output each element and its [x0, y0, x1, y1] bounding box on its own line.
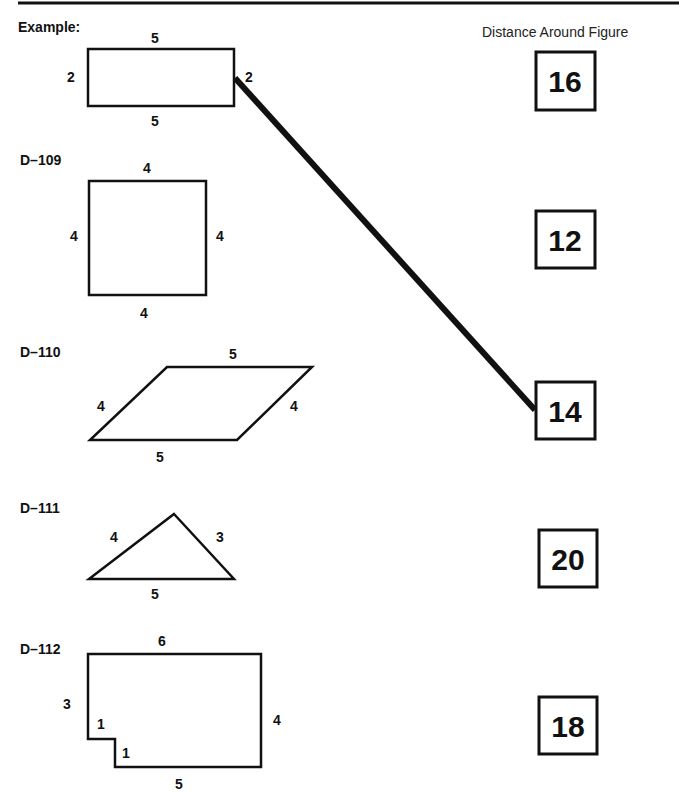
triangle-side-right: 3	[216, 529, 224, 545]
answer-value: 18	[551, 710, 584, 743]
triangle-figure	[89, 514, 234, 579]
example-side-left: 2	[67, 69, 75, 85]
example-rectangle	[88, 49, 234, 106]
answer-value: 12	[548, 224, 581, 257]
problem-id-d111: D–111	[20, 500, 60, 516]
notched-side-bottom: 5	[175, 776, 183, 792]
parallelogram-side-top: 5	[229, 346, 237, 362]
square-side-bottom: 4	[140, 305, 148, 321]
answer-box[interactable]: 18	[539, 697, 597, 754]
example-side-right: 2	[245, 69, 253, 85]
parallelogram-side-left: 4	[97, 398, 105, 414]
notched-rectangle-figure	[88, 654, 261, 767]
problem-id-d112: D–112	[20, 641, 61, 657]
notched-side-notch-side: 1	[122, 745, 130, 761]
notched-side-notch-top: 1	[97, 716, 105, 732]
problem-id-d110: D–110	[20, 344, 61, 360]
parallelogram-figure	[90, 367, 312, 440]
answer-box[interactable]: 16	[536, 52, 595, 110]
square-side-top: 4	[143, 160, 151, 176]
square-side-left: 4	[70, 228, 78, 244]
answer-value: 14	[548, 395, 582, 428]
parallelogram-side-right: 4	[290, 398, 298, 414]
notched-side-right: 4	[273, 712, 281, 728]
example-side-bottom: 5	[151, 113, 159, 129]
answer-box[interactable]: 20	[539, 530, 597, 587]
worksheet: Distance Around Figure Example: 5 2 2 5 …	[0, 0, 679, 802]
notched-side-left: 3	[63, 696, 71, 712]
example-side-top: 5	[151, 30, 159, 46]
example-label: Example:	[18, 19, 80, 35]
parallelogram-side-bottom: 5	[156, 449, 164, 465]
square-figure	[89, 181, 206, 295]
triangle-side-left: 4	[110, 529, 118, 545]
answer-box[interactable]: 14	[536, 382, 595, 439]
answer-box[interactable]: 12	[536, 211, 595, 268]
answer-value: 16	[548, 65, 581, 98]
answer-value: 20	[551, 543, 584, 576]
problem-id-d109: D–109	[20, 152, 61, 168]
column-title: Distance Around Figure	[482, 24, 629, 40]
triangle-side-bottom: 5	[151, 586, 159, 602]
match-line[interactable]	[235, 78, 535, 410]
notched-side-top: 6	[158, 633, 166, 649]
square-side-right: 4	[216, 228, 224, 244]
